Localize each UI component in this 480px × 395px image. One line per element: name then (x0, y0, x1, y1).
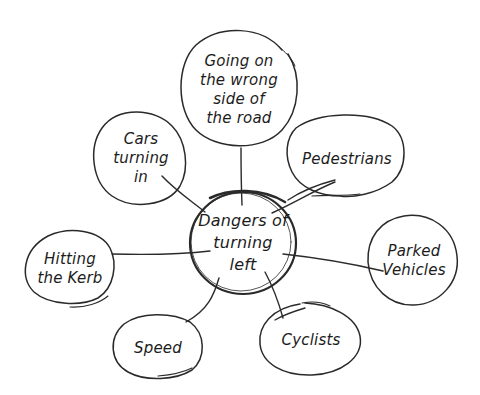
node-speed-label: Speed (134, 339, 182, 358)
edge-wrong-side (241, 148, 242, 205)
node-pedestrians-label: Pedestrians (302, 150, 392, 169)
node-cyclists[interactable]: Cyclists (266, 326, 356, 354)
node-wrong-side-label: Going on the wrong side of the road (200, 52, 278, 128)
center-node-label: Dangers of turning left (198, 210, 288, 276)
node-cars-turning-in[interactable]: Cars turning in (98, 120, 184, 196)
node-parked-vehicles-label: Parked Vehicles (382, 242, 445, 280)
node-speed[interactable]: Speed (118, 334, 198, 362)
center-node[interactable]: Dangers of turning left (193, 205, 293, 281)
node-hitting-kerb-label: Hitting the Kerb (37, 250, 102, 288)
node-cars-turning-in-label: Cars turning in (113, 130, 169, 187)
node-hitting-kerb[interactable]: Hitting the Kerb (26, 246, 114, 292)
node-wrong-side[interactable]: Going on the wrong side of the road (183, 40, 295, 140)
node-pedestrians[interactable]: Pedestrians (290, 142, 404, 176)
node-cyclists-label: Cyclists (281, 331, 340, 350)
node-parked-vehicles[interactable]: Parked Vehicles (370, 238, 458, 284)
mind-map-canvas: Dangers of turning left Going on the wro… (0, 0, 480, 395)
